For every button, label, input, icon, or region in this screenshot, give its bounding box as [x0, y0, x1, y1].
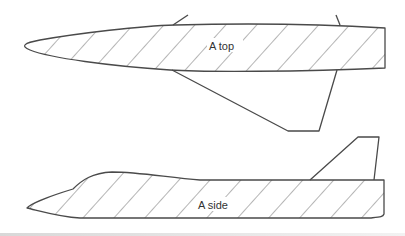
side-view: A side — [0, 120, 405, 236]
side-view-tail-fin — [310, 137, 379, 180]
top-view-wing-outline — [172, 70, 337, 131]
top-view: A top — [0, 0, 405, 131]
aircraft-area-diagram: A top A side — [0, 0, 405, 236]
bottom-divider — [0, 233, 405, 236]
top-view-hatching — [0, 0, 405, 120]
top-view-upper-wing-stub-front — [173, 15, 188, 25]
side-view-label: A side — [198, 199, 228, 211]
top-view-label: A top — [209, 40, 234, 52]
top-view-upper-wing-stub-rear — [336, 15, 340, 25]
